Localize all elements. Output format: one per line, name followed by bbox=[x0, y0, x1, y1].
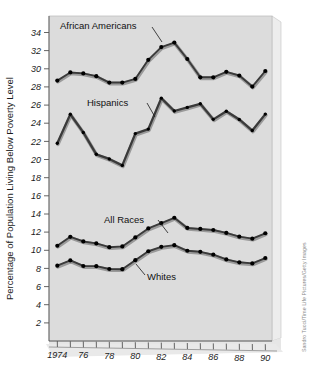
y-tick-labels: 2 4 6 8 10 12 14 16 18 20 22 24 26 28 30… bbox=[30, 28, 41, 328]
data-point bbox=[172, 243, 176, 247]
data-point bbox=[251, 129, 254, 132]
series-label-african-americans: African Americans bbox=[60, 20, 137, 31]
y-tick-label: 10 bbox=[31, 245, 41, 255]
x-tick-label: 76 bbox=[78, 350, 88, 360]
series-label-hispanics: Hispanics bbox=[87, 97, 128, 108]
panel-right-face bbox=[272, 16, 281, 341]
y-tick-label: 24 bbox=[30, 118, 41, 128]
data-point bbox=[146, 58, 150, 62]
data-point bbox=[121, 164, 124, 167]
data-point bbox=[68, 258, 72, 262]
data-point bbox=[55, 244, 59, 248]
y-tick-label: 34 bbox=[31, 28, 41, 38]
data-point bbox=[68, 235, 72, 239]
data-point bbox=[147, 127, 150, 130]
data-point bbox=[82, 131, 85, 134]
y-tick-label: 26 bbox=[30, 100, 41, 110]
series-label-whites: Whites bbox=[147, 271, 176, 282]
data-point bbox=[263, 256, 267, 260]
y-tick-label: 22 bbox=[30, 137, 41, 147]
data-point bbox=[198, 75, 202, 79]
y-axis-title: Percentage of Population Living Below Po… bbox=[4, 77, 15, 300]
data-point bbox=[68, 70, 72, 74]
data-point bbox=[94, 264, 98, 268]
data-point bbox=[224, 70, 228, 74]
y-tick-label: 28 bbox=[30, 82, 41, 92]
data-point bbox=[81, 264, 85, 268]
y-tick-label: 30 bbox=[31, 64, 41, 74]
y-tick-label: 6 bbox=[36, 282, 41, 292]
data-point bbox=[263, 231, 267, 235]
data-point bbox=[107, 267, 111, 271]
data-point bbox=[120, 267, 124, 271]
data-point bbox=[263, 69, 267, 73]
plot-panel bbox=[49, 16, 272, 341]
data-point bbox=[173, 109, 176, 112]
data-point bbox=[250, 237, 254, 241]
x-tick-label: 90 bbox=[260, 353, 270, 363]
data-point bbox=[146, 249, 150, 253]
x-tick-label: 84 bbox=[182, 352, 192, 362]
poverty-chart-figure: 2 4 6 8 10 12 14 16 18 20 22 24 26 28 30… bbox=[0, 0, 316, 385]
data-point bbox=[199, 102, 202, 105]
y-tick-label: 18 bbox=[31, 173, 41, 183]
data-point bbox=[212, 118, 215, 121]
data-point bbox=[250, 84, 254, 88]
data-point bbox=[224, 257, 228, 261]
chart-canvas: 2 4 6 8 10 12 14 16 18 20 22 24 26 28 30… bbox=[0, 0, 316, 385]
data-point bbox=[95, 153, 98, 156]
data-point bbox=[81, 71, 85, 75]
data-point bbox=[211, 253, 215, 257]
x-tick-label: 1974 bbox=[47, 350, 67, 360]
data-point bbox=[238, 118, 241, 121]
y-tick-label: 12 bbox=[31, 227, 41, 237]
data-point bbox=[81, 239, 85, 243]
data-point bbox=[56, 142, 59, 145]
x-tick-label: 88 bbox=[234, 353, 244, 363]
data-point bbox=[133, 235, 137, 239]
data-point bbox=[185, 249, 189, 253]
y-tick-label: 2 bbox=[35, 318, 41, 328]
data-point bbox=[264, 112, 267, 115]
y-tick-label: 8 bbox=[36, 264, 41, 274]
data-point bbox=[186, 106, 189, 109]
data-point bbox=[55, 264, 59, 268]
photo-credit: Sandro Tucci/Time Life Pictures/Getty Im… bbox=[301, 242, 307, 352]
data-point bbox=[198, 227, 202, 231]
data-point bbox=[120, 80, 124, 84]
x-tick-label: 80 bbox=[130, 351, 140, 361]
data-point bbox=[120, 244, 124, 248]
y-tick-label: 32 bbox=[31, 46, 41, 56]
data-point bbox=[185, 57, 189, 61]
data-point bbox=[224, 231, 228, 235]
x-tick-label: 78 bbox=[104, 351, 114, 361]
y-tick-label: 4 bbox=[36, 300, 41, 310]
data-point bbox=[237, 260, 241, 264]
x-tick-labels: 1974 76 78 80 82 84 86 88 90 bbox=[47, 350, 270, 363]
data-point bbox=[185, 226, 189, 230]
data-point bbox=[55, 78, 59, 82]
data-point bbox=[225, 109, 228, 112]
series-label-all-races: All Races bbox=[104, 214, 144, 225]
y-tick-marks bbox=[44, 33, 49, 323]
y-tick-label: 14 bbox=[31, 209, 41, 219]
y-tick-label: 20 bbox=[30, 155, 41, 165]
data-point bbox=[69, 113, 72, 116]
data-point bbox=[108, 157, 111, 160]
x-tick-label: 86 bbox=[208, 352, 218, 362]
data-point bbox=[159, 45, 163, 49]
data-point bbox=[133, 77, 137, 81]
data-point bbox=[146, 226, 150, 230]
data-point bbox=[159, 245, 163, 249]
data-point bbox=[198, 250, 202, 254]
data-point bbox=[160, 96, 163, 99]
data-point bbox=[172, 40, 176, 44]
x-tick-label: 82 bbox=[156, 352, 166, 362]
data-point bbox=[107, 245, 111, 249]
data-point bbox=[134, 132, 137, 135]
data-point bbox=[133, 258, 137, 262]
data-point bbox=[94, 74, 98, 78]
data-point bbox=[250, 261, 254, 265]
data-point bbox=[237, 235, 241, 239]
data-point bbox=[211, 228, 215, 232]
